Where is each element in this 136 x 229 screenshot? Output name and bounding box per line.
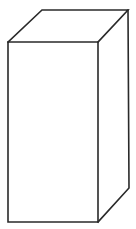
cuboid-right-face [98, 10, 129, 222]
cuboid-front-face [8, 42, 98, 222]
cuboid-diagram [0, 0, 136, 229]
diagram-canvas [0, 0, 136, 229]
